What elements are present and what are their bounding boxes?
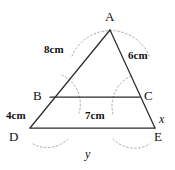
geometry-figure: A B C D E 8cm 6cm 4cm 7cm x y [0,0,175,170]
figure-canvas [0,0,175,170]
vertex-label-e: E [154,130,162,143]
measure-label-ab: 8cm [44,44,64,55]
vertex-label-a: A [105,10,114,23]
vertex-label-c: C [144,89,153,102]
arc-at-vertex-d [33,139,68,148]
vertex-label-d: D [9,130,18,143]
variable-label-ce: x [159,113,164,125]
arc-at-vertex-e [113,139,150,148]
variable-label-de: y [85,148,90,160]
measure-label-ac: 6cm [128,50,148,61]
segment-ae [110,30,155,128]
measure-label-bc: 7cm [85,110,105,121]
arc-at-vertex-c [112,76,131,114]
vertex-label-b: B [33,89,42,102]
measure-label-bd: 4cm [6,110,26,121]
arc-at-vertex-b [62,75,80,113]
